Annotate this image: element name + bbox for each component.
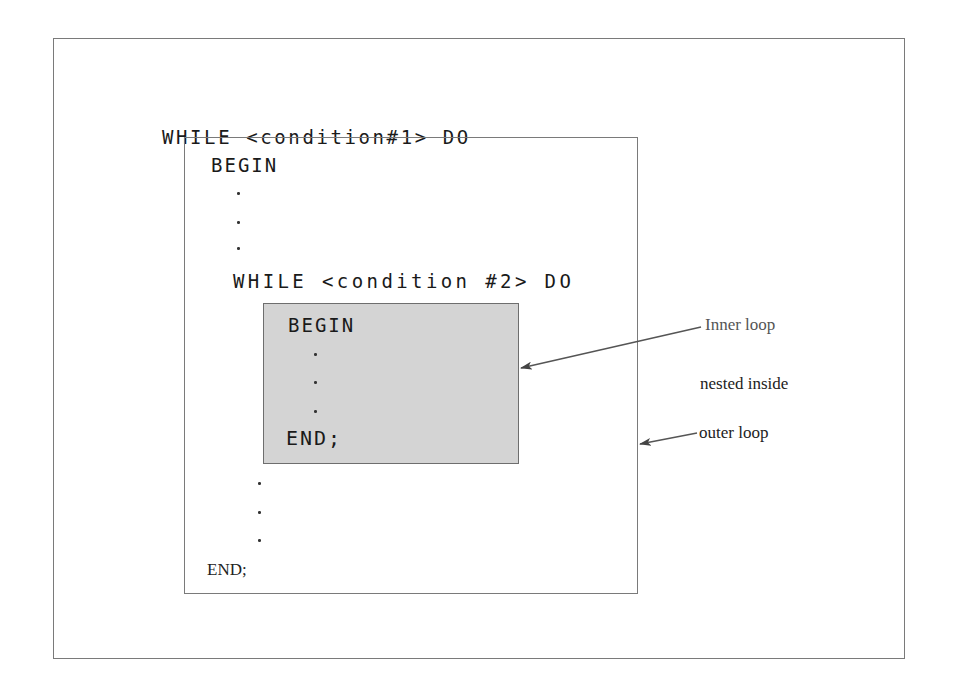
- inner-loop-label: Inner loop: [705, 315, 775, 335]
- outer-loop-arrow: [640, 433, 697, 444]
- annotation-arrows: [0, 0, 960, 697]
- inner-loop-arrow: [521, 327, 701, 368]
- outer-loop-label: outer loop: [699, 423, 768, 443]
- nested-inside-label: nested inside: [700, 374, 788, 394]
